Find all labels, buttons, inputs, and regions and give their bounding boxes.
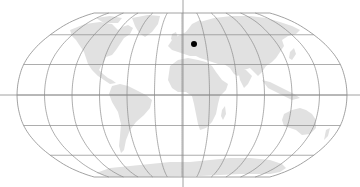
island-new-zealand bbox=[324, 128, 330, 140]
land-layer bbox=[70, 15, 330, 177]
continent-south-america bbox=[109, 84, 152, 153]
continent-africa bbox=[168, 58, 228, 130]
continent-australia bbox=[282, 108, 316, 135]
crosshair bbox=[0, 0, 360, 187]
continent-north-america bbox=[70, 22, 133, 84]
island-japan bbox=[289, 48, 296, 60]
arctic-islands bbox=[96, 16, 122, 23]
island-greenland bbox=[132, 15, 160, 37]
location-marker[interactable] bbox=[191, 41, 197, 47]
region-india bbox=[238, 70, 252, 88]
world-map-canvas[interactable] bbox=[0, 0, 360, 187]
island-madagascar bbox=[221, 106, 226, 120]
region-southeast-asia bbox=[262, 80, 300, 100]
world-map[interactable] bbox=[0, 0, 360, 187]
